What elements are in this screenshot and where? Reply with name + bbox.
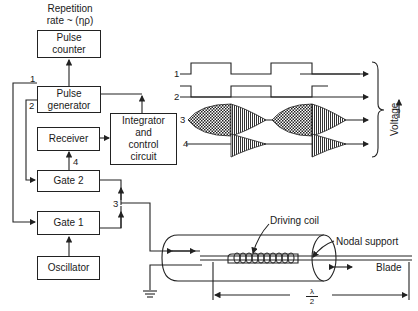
repetition-rate-label: Repetition rate ~ (ηρ): [36, 3, 104, 27]
waveform-1: [180, 63, 360, 74]
gate-2-block: Gate 2: [37, 170, 100, 192]
waveform-1-label: 1: [174, 68, 179, 79]
gate-1-block: Gate 1: [37, 211, 100, 235]
integrator-block: Integrator and control circuit: [110, 113, 177, 165]
waveform-4: [231, 134, 346, 157]
oscillator-block: Oscillator: [37, 256, 100, 280]
waveform-4-label: 4: [183, 138, 188, 149]
signal-3-line: [121, 203, 200, 251]
denominator: 2: [306, 297, 318, 306]
signal-4-label: 4: [73, 156, 78, 167]
signal-2-label: 2: [29, 100, 34, 111]
pulse-counter-block: Pulse counter: [37, 30, 101, 58]
blade-label: Blade: [376, 262, 402, 273]
receiver-block: Receiver: [37, 127, 100, 151]
signal-3-label: 3: [113, 198, 118, 209]
nodal-support-label: Nodal support: [336, 236, 398, 247]
signal-1-label: 1: [30, 73, 35, 84]
voltage-axis-label: Voltage: [389, 103, 400, 136]
driving-coil-label: Driving coil: [270, 215, 319, 226]
pulse-generator-block: Pulse generator: [37, 86, 101, 113]
waveform-2: [180, 86, 328, 97]
voltage-brace: [372, 62, 384, 157]
waveform-2-label: 2: [174, 91, 179, 102]
half-wavelength-label: λ 2: [306, 287, 318, 306]
signal-2-line: [26, 100, 37, 180]
waveform-3-label: 3: [180, 114, 185, 125]
lambda-symbol: λ: [306, 287, 318, 297]
